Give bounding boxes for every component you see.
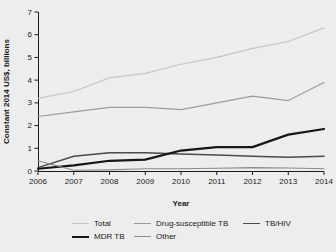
legend-label-other: Other [156,232,176,241]
legend-item-mdr-tb: MDR TB [72,232,125,241]
x-tick-label: 2010 [172,177,190,186]
legend-label-total: Total [94,219,111,228]
series-line-other [38,161,324,171]
y-tick-label: 7 [28,8,33,17]
y-tick-label: 0 [28,167,33,176]
x-tick-label: 2009 [136,177,154,186]
legend-line-swatch-other [134,236,151,237]
y-axis-title: Constant 2014 US$, billions [2,38,11,143]
x-tick-label: 2006 [29,177,47,186]
legend-line-swatch-drug-susceptible-tb [134,223,151,224]
legend-line-swatch-tb-hiv [243,223,260,224]
legend-label-mdr-tb: MDR TB [94,232,125,241]
y-tick-label: 2 [28,121,33,130]
legend-item-tb-hiv: TB/HIV [243,219,291,228]
x-tick-label: 2008 [101,177,119,186]
legend-line-swatch-total [72,223,89,224]
series-line-drug-susceptible-tb [38,82,324,116]
legend-label-drug-susceptible-tb: Drug-susceptible TB [156,219,228,228]
legend-line-swatch-mdr-tb [72,236,89,238]
x-tick-label: 2007 [65,177,83,186]
series-line-total [38,28,324,98]
y-tick-label: 3 [28,98,33,107]
y-tick-label: 6 [28,30,33,39]
x-tick-label: 2012 [244,177,262,186]
x-tick-label: 2013 [279,177,297,186]
x-tick-label: 2011 [208,177,226,186]
tb-financing-line-chart: 0123456720062007200820092010201120122013… [0,0,336,252]
legend-item-total: Total [72,219,111,228]
x-tick-label: 2014 [315,177,333,186]
series-line-mdr-tb [38,129,324,169]
y-tick-label: 1 [28,144,33,153]
chart-canvas: 0123456720062007200820092010201120122013… [0,0,336,212]
legend-item-drug-susceptible-tb: Drug-susceptible TB [134,219,228,228]
legend-label-tb-hiv: TB/HIV [265,219,291,228]
legend-item-other: Other [134,232,176,241]
y-tick-label: 4 [28,76,33,85]
x-axis-title: Year [173,199,190,208]
y-tick-label: 5 [28,53,33,62]
